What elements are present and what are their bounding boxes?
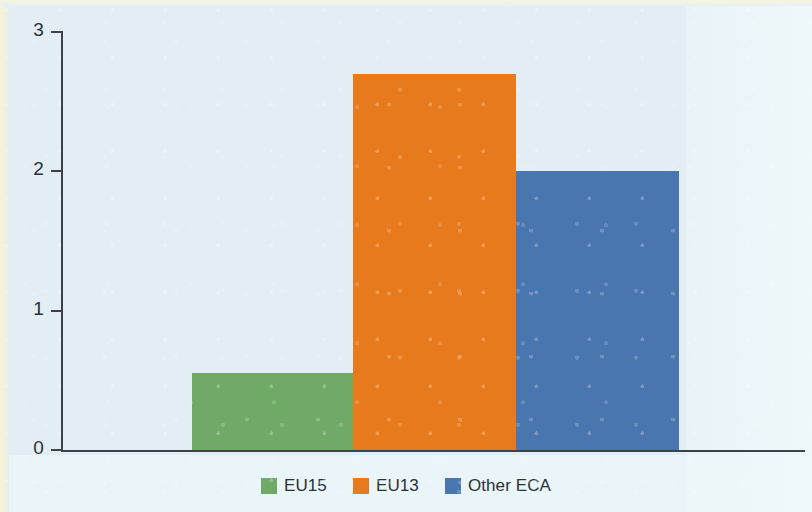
legend-item[interactable]: Other ECA — [445, 476, 551, 496]
y-tick-label-0: 0 — [14, 437, 44, 459]
bar-other-eca — [516, 171, 679, 450]
chart-legend: EU15 EU13 Other ECA — [0, 476, 812, 496]
y-tick-0 — [51, 449, 62, 451]
legend-label-eu15: EU15 — [284, 476, 327, 496]
legend-item[interactable]: EU13 — [353, 476, 419, 496]
y-tick-label-1: 1 — [14, 298, 44, 320]
legend-swatch-eu15 — [261, 478, 277, 494]
legend-item[interactable]: EU15 — [261, 476, 327, 496]
y-tick-label-2: 2 — [14, 158, 44, 180]
chart-page: 3210 EU15 EU13 Other ECA — [0, 0, 812, 512]
y-tick-label-3: 3 — [14, 19, 44, 41]
legend-label-other-eca: Other ECA — [468, 476, 551, 496]
plot-area: 3210 — [0, 0, 812, 512]
x-axis-line — [61, 450, 805, 452]
y-tick-1 — [51, 310, 62, 312]
legend-swatch-other-eca — [445, 478, 461, 494]
y-axis-line — [61, 31, 63, 452]
legend-label-eu13: EU13 — [376, 476, 419, 496]
bar-eu15 — [192, 373, 353, 450]
y-tick-2 — [51, 170, 62, 172]
legend-swatch-eu13 — [353, 478, 369, 494]
y-tick-3 — [51, 31, 62, 33]
bar-eu13 — [353, 74, 516, 450]
